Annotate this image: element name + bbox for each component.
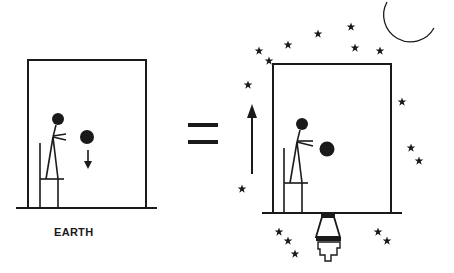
star-icon [275,228,284,236]
earth-scene [16,60,157,208]
star-icon [374,228,383,236]
star-icon [238,185,247,193]
star-icon [407,144,416,152]
star-icon [376,47,385,55]
star-icon [291,250,300,258]
person-head [296,118,308,130]
star-icon [244,81,253,89]
arrow-up-icon [247,104,257,174]
earth-label: EARTH [54,226,93,238]
star-icon [383,237,392,245]
rocket-engine-icon [316,213,341,261]
person-head [52,113,64,125]
earth-person [46,113,66,179]
star-icon [284,237,293,245]
earth-ball [80,130,94,144]
stars [238,23,424,258]
space-ball [320,142,335,157]
star-icon [314,30,323,38]
star-icon [398,98,407,106]
earth-chair [40,143,64,208]
equals-sign [188,123,218,144]
star-icon [284,41,293,49]
space-chair [284,148,308,213]
space-scene [238,2,434,261]
space-box [273,64,391,213]
space-person [290,118,313,183]
star-icon [255,47,264,55]
star-icon [351,44,360,52]
exhaust-flame [318,242,340,261]
crescent-moon-icon [384,2,434,42]
star-icon [415,157,424,165]
arrow-down-icon [84,150,92,169]
star-icon [347,23,356,31]
